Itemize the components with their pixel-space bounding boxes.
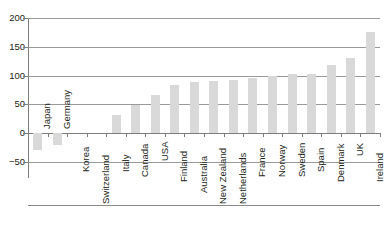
category-label-italy: Italy [121,154,131,171]
category-label-new-zealand: New Zealand [218,148,228,204]
category-label-usa: USA [160,142,170,162]
category-label-switzerland: Switzerland [101,154,111,203]
category-labels: JapanGermanyKoreaSwitzerlandItalyCanadaU… [28,0,380,245]
category-label-norway: Norway [277,145,287,177]
category-label-netherlands: Netherlands [238,152,248,203]
category-label-australia: Australia [199,156,209,193]
category-label-ireland: Ireland [375,153,385,182]
category-label-japan: Japan [42,103,52,129]
bar-chart: −50050100150200 JapanGermanyKoreaSwitzer… [0,0,389,245]
category-label-france: France [257,147,267,177]
chart-baseline [28,205,380,206]
category-tick [380,133,381,137]
category-label-denmark: Denmark [336,144,346,183]
category-label-uk: UK [355,143,365,156]
category-label-germany: Germany [62,90,72,129]
y-axis-labels: −50050100150200 [0,0,25,245]
category-label-canada: Canada [140,144,150,177]
category-label-spain: Spain [316,147,326,171]
category-label-korea: Korea [81,146,91,171]
category-label-sweden: Sweden [297,143,307,177]
category-label-finland: Finland [179,151,189,182]
